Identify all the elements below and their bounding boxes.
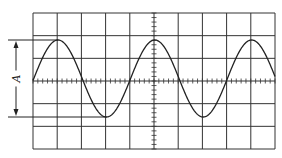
arrow-down-icon — [14, 109, 19, 116]
oscilloscope-diagram: A — [0, 0, 282, 158]
amplitude-label: A — [10, 74, 23, 83]
arrow-up-icon — [14, 41, 19, 48]
oscilloscope-screen: A — [0, 0, 282, 158]
